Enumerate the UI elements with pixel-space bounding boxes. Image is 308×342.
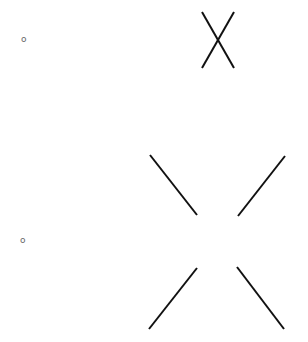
line-segment [150, 155, 197, 215]
diagram-canvas [0, 0, 308, 342]
line-segment [237, 267, 284, 329]
line-segment [238, 156, 285, 216]
line-segment [149, 268, 197, 329]
crossed-lines-small [202, 12, 234, 68]
split-cross-large [149, 155, 285, 329]
